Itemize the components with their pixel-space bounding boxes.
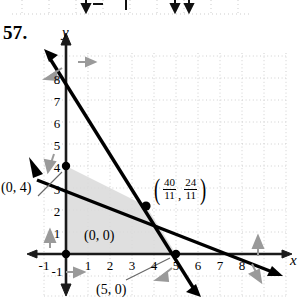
left-paren: ( [154, 176, 160, 202]
x-tick-label-8: 8 [235, 258, 249, 274]
fraction-y-denominator: 11 [184, 189, 197, 202]
y-tick-label-7: 7 [50, 94, 64, 110]
x-axis-label: x [290, 252, 297, 269]
gray-arrow-upper-right [78, 58, 95, 66]
x-tick-label--1: -1 [37, 258, 51, 274]
right-paren: ) [200, 176, 206, 202]
vertex-intersection [141, 201, 150, 210]
fraction-x-denominator: 11 [163, 189, 176, 202]
y-axis-arrow-down [61, 284, 71, 296]
y-tick-label-1: 1 [50, 226, 64, 242]
y-tick-label--1: -1 [50, 264, 64, 280]
y-tick-label-5: 5 [50, 138, 64, 154]
vertex-5-0 [172, 250, 180, 258]
x-tick-label-5: 5 [169, 258, 183, 274]
fraction-y: 24 11 [183, 177, 198, 201]
x-tick-label-7: 7 [213, 258, 227, 274]
y-axis-label: y [62, 24, 69, 41]
point-label-origin: (0, 0) [84, 228, 114, 244]
vertex-origin [62, 250, 70, 258]
point-label-5-0: (5, 0) [96, 282, 126, 298]
x-tick-label-6: 6 [191, 258, 205, 274]
y-tick-label-3: 3 [50, 182, 64, 198]
x-axis-arrow-left [27, 250, 37, 258]
x-tick-label-1: 1 [81, 258, 95, 274]
point-label-0-4: (0, 4) [1, 180, 31, 196]
fraction-x: 40 11 [162, 177, 177, 201]
x-tick-label-3: 3 [125, 258, 139, 274]
fraction-x-numerator: 40 [163, 177, 176, 189]
figure-container: 57. [0, 0, 307, 303]
x-tick-label-4: 4 [147, 258, 161, 274]
y-tick-label-4: 4 [50, 160, 64, 176]
y-tick-label-2: 2 [50, 204, 64, 220]
y-tick-label-8: 8 [50, 72, 64, 88]
fraction-y-numerator: 24 [184, 177, 197, 189]
x-tick-label-2: 2 [103, 258, 117, 274]
point-label-intersection: ( 40 11 , 24 11 ) [152, 176, 208, 202]
y-tick-label-6: 6 [50, 116, 64, 132]
